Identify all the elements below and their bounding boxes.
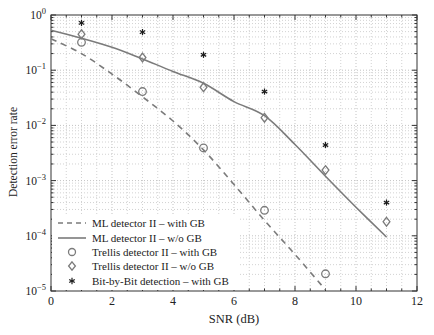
legend-label: Bit-by-Bit detection – with GB bbox=[92, 275, 229, 287]
figure-detection-error-rate-chart: 02468101210010−110−210−310−410−5 Detecti… bbox=[0, 0, 434, 335]
legend-label: ML detector II – w/o GB bbox=[92, 232, 202, 244]
solid-line-sample-icon bbox=[56, 233, 88, 243]
legend-item-trellis-with-gb: Trellis detector II – with GB bbox=[56, 245, 240, 259]
asterisk-marker-icon bbox=[56, 276, 88, 286]
legend-item-trellis-wo-gb: Trellis detector II – w/o GB bbox=[56, 259, 240, 273]
legend-item-bit-by-bit: Bit-by-Bit detection – with GB bbox=[56, 274, 240, 288]
legend: ML detector II – with GB ML detector II … bbox=[52, 214, 240, 290]
legend-item-ml-with-gb: ML detector II – with GB bbox=[56, 216, 240, 230]
x-tick-label: 12 bbox=[411, 294, 423, 308]
y-tick-label: 10−1 bbox=[25, 61, 46, 76]
y-tick-label: 10−2 bbox=[25, 116, 46, 131]
x-axis-title: SNR (dB) bbox=[209, 312, 259, 327]
y-tick-label: 10−5 bbox=[25, 282, 46, 297]
y-tick-label: 10−4 bbox=[25, 227, 46, 242]
y-axis-title: Detection error rate bbox=[7, 107, 19, 197]
diamond-marker-icon bbox=[56, 261, 88, 271]
x-tick-label: 10 bbox=[350, 294, 362, 308]
x-tick-label: 2 bbox=[109, 294, 115, 308]
legend-label: Trellis detector II – w/o GB bbox=[92, 260, 214, 272]
legend-item-ml-wo-gb: ML detector II – w/o GB bbox=[56, 230, 240, 244]
x-tick-label: 8 bbox=[292, 294, 298, 308]
y-tick-label: 100 bbox=[30, 6, 46, 21]
legend-label: ML detector II – with GB bbox=[92, 217, 205, 229]
x-tick-label: 6 bbox=[231, 294, 237, 308]
dashed-line-sample-icon bbox=[56, 218, 88, 228]
circle-marker-icon bbox=[56, 247, 88, 257]
y-tick-label: 10−3 bbox=[25, 172, 46, 187]
legend-label: Trellis detector II – with GB bbox=[92, 246, 217, 258]
x-tick-label: 0 bbox=[48, 294, 54, 308]
x-tick-label: 4 bbox=[170, 294, 176, 308]
